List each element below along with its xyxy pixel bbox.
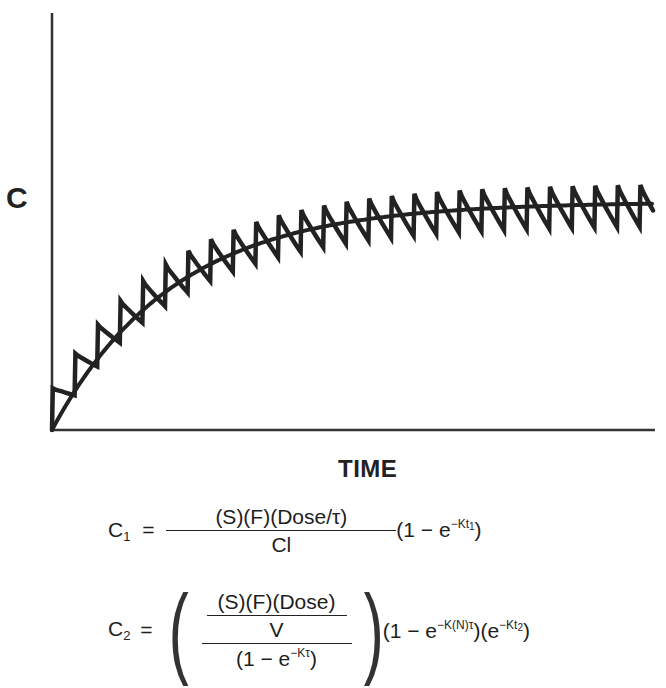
eq2-lhs: C2 — [108, 617, 130, 643]
eq1-fraction: (S)(F)(Dose/τ) Cl — [166, 505, 396, 557]
eq2-left-paren: ( — [169, 580, 189, 680]
eq2-outer-fraction: (S)(F)(Dose) V (1 − e−Kτ) — [202, 590, 352, 671]
eq2-tail: (1 − e−K(N)τ)(e−Kt2) — [383, 619, 530, 642]
eq1-lhs: C1 — [108, 518, 130, 541]
eq2-equals: = — [140, 618, 152, 641]
eq1-tail: (1 − e−Kt1) — [396, 518, 481, 541]
eq1-equals: = — [142, 518, 154, 541]
eq2-inner-numerator: (S)(F)(Dose) — [207, 590, 347, 615]
eq2-outer-numerator: (S)(F)(Dose) V — [202, 590, 352, 643]
equation-c1: C1 = (S)(F)(Dose/τ) Cl (1 − e−Kt1) — [108, 505, 482, 557]
eq2-right-paren: ) — [364, 580, 384, 680]
eq1-denominator: Cl — [166, 530, 396, 557]
eq2-inner-fraction: (S)(F)(Dose) V — [207, 590, 347, 642]
eq2-outer-denominator: (1 − e−Kτ) — [202, 643, 352, 671]
equation-c2: C2 = ( (S)(F)(Dose) V (1 − e−Kτ) )(1 − e… — [108, 580, 530, 680]
eq1-numerator: (S)(F)(Dose/τ) — [166, 505, 396, 530]
eq2-inner-denominator: V — [207, 615, 347, 642]
y-axis-label: C — [6, 181, 28, 215]
x-axis-label: TIME — [338, 455, 397, 483]
